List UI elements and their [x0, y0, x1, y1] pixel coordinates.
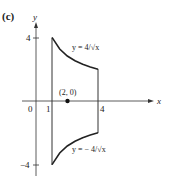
- tick-x1: 1: [46, 105, 51, 114]
- y-axis-label: y: [33, 13, 37, 22]
- point-label: (2, 0): [59, 89, 76, 97]
- tick-y4: 4: [26, 34, 31, 43]
- point-2-0: [65, 99, 69, 103]
- tick-yneg4: −4: [20, 161, 30, 170]
- x-axis-label: x: [157, 97, 161, 106]
- tick-x4: 4: [100, 105, 105, 114]
- tick-origin: 0: [28, 105, 33, 114]
- lower-curve-label: y = − 4/√x: [72, 146, 106, 154]
- y-axis-arrow-icon: [34, 22, 38, 28]
- upper-curve-label: y = 4/√x: [72, 44, 99, 52]
- x-axis-arrow-icon: [148, 99, 154, 103]
